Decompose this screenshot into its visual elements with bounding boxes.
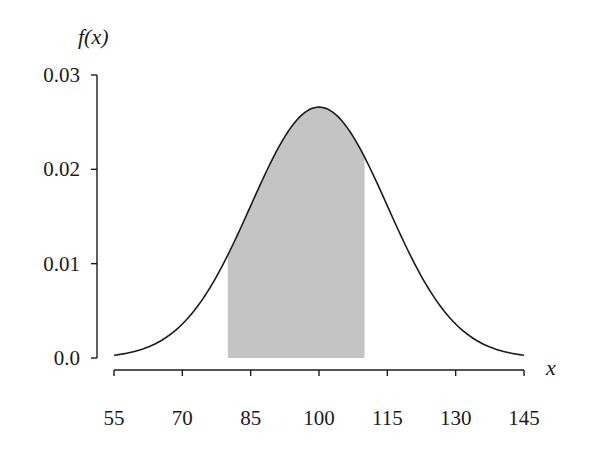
x-tick-label: 145	[508, 406, 540, 430]
x-tick-label: 85	[240, 406, 261, 430]
x-axis-ticks: 557085100115130145	[104, 370, 540, 430]
shaded-probability-region	[228, 107, 365, 358]
x-tick-label: 130	[440, 406, 472, 430]
x-axis-title: x	[545, 355, 556, 380]
x-tick-label: 115	[372, 406, 403, 430]
y-tick-label: 0.03	[43, 63, 80, 87]
x-tick-label: 55	[104, 406, 125, 430]
y-axis-title: f(x)	[78, 24, 109, 49]
shaded-area	[228, 107, 365, 358]
x-tick-label: 70	[172, 406, 193, 430]
x-tick-label: 100	[303, 406, 335, 430]
normal-distribution-chart: 0.00.010.020.03 557085100115130145 f(x) …	[0, 0, 590, 461]
y-tick-label: 0.0	[54, 346, 80, 370]
y-tick-label: 0.02	[43, 157, 80, 181]
y-tick-label: 0.01	[43, 252, 80, 276]
y-axis-ticks: 0.00.010.020.03	[43, 63, 97, 370]
